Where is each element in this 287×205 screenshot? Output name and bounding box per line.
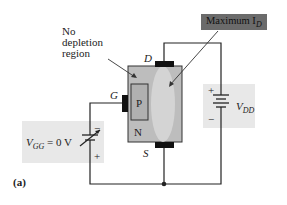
panel-label: (a) [13,176,26,188]
maximum-id-sub: D [256,20,262,29]
gate-pad [122,95,128,112]
channel-band [151,66,175,142]
jfet-diagram: No depletion region Maximum ID D G S P N… [0,0,287,205]
drain-pad [155,61,174,67]
note-line-3: region [62,48,103,59]
n-label: N [134,126,142,138]
p-label: P [136,97,142,109]
junction-dot [162,182,167,187]
vgg-plus: + [94,150,100,162]
vdd-minus: − [208,113,214,125]
gate-label: G [110,89,118,101]
maximum-id-label: Maximum ID [201,14,267,30]
vgg-label: VGG = 0 V [26,136,72,153]
vdd-label: VDD [236,100,254,117]
source-pad [155,142,174,148]
vgg-v: V [26,136,33,148]
vdd-sub: DD [243,106,255,115]
vgg-sub: GG [33,142,45,151]
no-depletion-label: No depletion region [62,26,103,59]
vdd-plus: + [208,84,214,96]
source-label: S [143,147,149,159]
vgg-minus: − [94,122,100,134]
vdd-v: V [236,100,243,112]
vgg-value: = 0 V [44,136,72,148]
drain-label: D [144,52,152,64]
maximum-id-text: Maximum I [206,15,256,26]
